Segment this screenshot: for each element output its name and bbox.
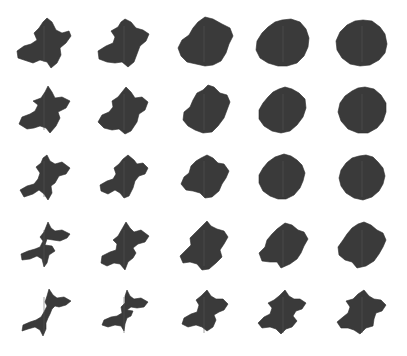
aggregate-shape-r1-c4	[256, 19, 309, 66]
figure-grid	[0, 0, 407, 356]
shape-body	[102, 290, 148, 331]
aggregate-shape-r3-c4	[259, 154, 305, 199]
shape-body	[98, 87, 148, 134]
aggregate-shape-r4-c2	[101, 222, 149, 270]
aggregate-shape-r3-c1	[20, 155, 70, 200]
shape-body	[182, 290, 228, 331]
aggregate-shape-r1-c3	[178, 17, 233, 66]
shape-body	[259, 154, 305, 199]
aggregate-shape-r1-c2	[98, 19, 149, 67]
aggregate-shape-r5-c5	[337, 290, 386, 334]
aggregate-shape-r5-c3	[182, 290, 228, 333]
aggregate-shape-r5-c4	[258, 290, 306, 334]
shape-body	[258, 290, 306, 334]
shape-body	[178, 17, 233, 66]
aggregate-shape-r2-c5	[338, 87, 386, 133]
aggregate-shape-r3-c3	[181, 155, 229, 198]
shape-body	[20, 155, 70, 200]
shape-body	[101, 222, 149, 270]
aggregate-shape-r4-c3	[180, 221, 228, 270]
aggregate-shape-r4-c1	[21, 222, 70, 267]
aggregate-shapes-figure	[0, 0, 407, 356]
aggregate-shape-r5-c1	[22, 289, 71, 336]
aggregate-shape-r3-c5	[339, 155, 385, 200]
aggregate-shape-r2-c2	[98, 87, 148, 134]
shape-body	[183, 85, 230, 133]
aggregate-shape-r5-c2	[102, 290, 148, 333]
shape-body	[22, 289, 71, 336]
aggregate-shape-r2-c3	[183, 85, 230, 133]
aggregate-shape-r4-c5	[338, 222, 386, 268]
aggregate-shape-r3-c2	[100, 155, 148, 198]
shape-body	[181, 155, 229, 198]
aggregate-shape-r1-c5	[336, 20, 387, 66]
aggregate-shape-r2-c1	[19, 86, 70, 133]
aggregate-shape-r2-c4	[259, 87, 306, 133]
aggregate-shape-r1-c1	[17, 18, 71, 68]
shape-body	[21, 222, 70, 267]
aggregate-shape-r4-c4	[259, 223, 308, 268]
